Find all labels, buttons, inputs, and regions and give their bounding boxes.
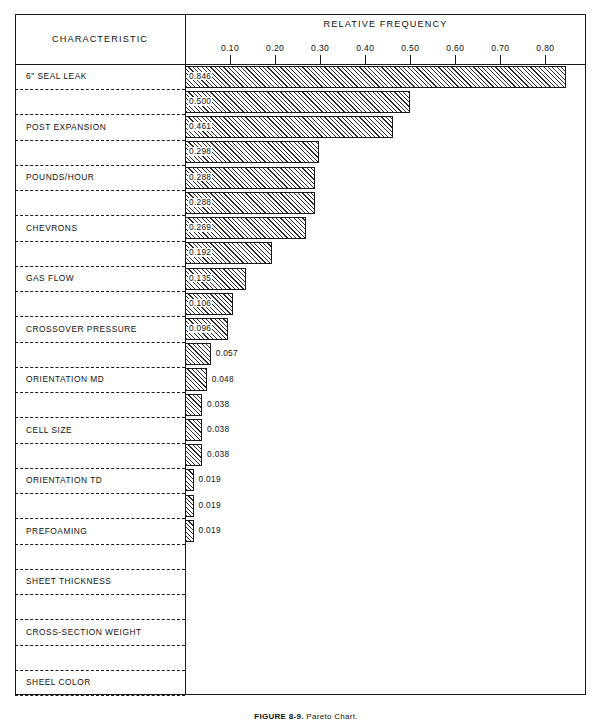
row-label: 6" SEAL LEAK <box>26 71 87 81</box>
bar-value-label: 0.461 <box>188 122 212 131</box>
chart-table: CHARACTERISTIC RELATIVE FREQUENCY 0.100.… <box>15 14 586 695</box>
table-row: ORIENTATION TD <box>15 266 586 291</box>
bar-value-label: 0.019 <box>199 501 221 510</box>
table-row: 412" AMP <box>15 594 586 619</box>
table-row: CROSS-SECTION WEIGHT <box>15 342 586 367</box>
bar <box>185 419 202 441</box>
bar-value-label: 0.019 <box>199 526 221 535</box>
axis-tick <box>500 55 501 64</box>
bar-value-label: 0.019 <box>199 475 221 484</box>
bar-value-label: 0.057 <box>216 349 238 358</box>
axis-tick <box>275 55 276 64</box>
figure-caption-number: FIGURE 8-9. <box>254 712 304 721</box>
bar <box>185 394 202 416</box>
bar <box>185 343 211 365</box>
axis-tick <box>410 55 411 64</box>
axis-tick-label: 0.10 <box>221 43 239 53</box>
pareto-chart-figure: CHARACTERISTIC RELATIVE FREQUENCY 0.100.… <box>0 0 612 724</box>
figure-caption: FIGURE 8-9. Pareto Chart. <box>0 712 612 721</box>
axis-tick-label: 0.30 <box>311 43 329 53</box>
table-row: 6" BARREL PRESSURE <box>15 518 586 543</box>
axis-tick <box>320 55 321 64</box>
table-row: SHEET WIDTH <box>15 645 586 670</box>
bar <box>185 116 393 138</box>
axis-tick <box>545 55 546 64</box>
bar <box>185 520 194 542</box>
table-row <box>15 670 586 695</box>
bar-value-label: 0.500 <box>188 97 212 106</box>
figure-caption-text: Pareto Chart. <box>306 712 357 721</box>
bar-value-label: 0.269 <box>188 223 212 232</box>
axis-tick <box>365 55 366 64</box>
axis-tick-label: 0.50 <box>401 43 419 53</box>
table-row: 6" AMP <box>15 392 586 417</box>
table-row: SHEEL COLOR <box>15 367 586 392</box>
bar-value-label: 0.288 <box>188 198 212 207</box>
axis-tick-label: 0.40 <box>356 43 374 53</box>
table-row: 412" RPM <box>15 417 586 442</box>
table-row: GAS RETENTION <box>15 493 586 518</box>
table-row: CELL SIZE <box>15 241 586 266</box>
axis-tick-label: 0.60 <box>446 43 464 53</box>
axis-tick <box>230 55 231 64</box>
bar-value-label: 0.288 <box>188 173 212 182</box>
bar <box>185 495 194 517</box>
table-row: DIE PRESSURE <box>15 443 586 468</box>
bar-value-label: 0.048 <box>212 375 234 384</box>
chart-rows: 6" SEAL LEAK0.846POST EXPANSION0.500POUN… <box>15 64 586 695</box>
bar-value-label: 0.038 <box>207 425 229 434</box>
characteristic-column-header: CHARACTERISTIC <box>15 14 185 64</box>
axis-tick-label: 0.20 <box>266 43 284 53</box>
bar-value-label: 0.135 <box>188 274 212 283</box>
axis-tick <box>455 55 456 64</box>
table-row: PREFOAMING <box>15 291 586 316</box>
bar-value-label: 0.038 <box>207 400 229 409</box>
table-row: 6" RPM <box>15 619 586 644</box>
bar <box>185 368 207 390</box>
x-axis: 0.100.200.300.400.500.600.700.80 <box>185 14 586 64</box>
table-row: SHEET THICKNESS <box>15 316 586 341</box>
row-separator <box>15 695 185 696</box>
table-row: SWRAP SPEED <box>15 468 586 493</box>
bar-value-label: 0.038 <box>207 450 229 459</box>
bar <box>185 66 566 88</box>
bar <box>185 444 202 466</box>
table-row: MELT TEMP #2 <box>15 569 586 594</box>
bar <box>185 469 194 491</box>
axis-tick-label: 0.80 <box>536 43 554 53</box>
table-row: MELT TEMP #1 <box>15 544 586 569</box>
table-header: CHARACTERISTIC RELATIVE FREQUENCY 0.100.… <box>15 14 586 64</box>
bar-value-label: 0.192 <box>188 248 212 257</box>
bar-value-label: 0.096 <box>188 324 212 333</box>
bar-value-label: 0.106 <box>188 299 212 308</box>
axis-tick-label: 0.70 <box>491 43 509 53</box>
bar-value-label: 0.846 <box>188 72 212 81</box>
bar-value-label: 0.298 <box>188 147 212 156</box>
bar <box>185 91 410 113</box>
